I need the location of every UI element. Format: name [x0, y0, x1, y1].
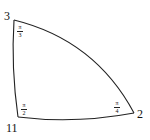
- triangle-drawing: [0, 0, 150, 140]
- vertex-label-top-left: 3: [4, 10, 10, 22]
- angle-numerator: π: [18, 24, 21, 30]
- vertex-label-right: 2: [137, 108, 143, 120]
- angle-numerator: π: [22, 102, 25, 108]
- vertex-label-bottom-left: 11: [6, 122, 18, 134]
- angle-denominator: 3: [19, 32, 22, 38]
- angle-numerator: π: [115, 100, 118, 106]
- angle-label-bottom-left: π 2: [21, 102, 27, 116]
- angle-label-top-left: π 3: [17, 24, 23, 38]
- angle-denominator: 2: [23, 110, 26, 116]
- angle-denominator: 4: [116, 108, 119, 114]
- edge-right-to-bottom: [18, 113, 134, 120]
- angle-label-right: π 4: [114, 100, 120, 114]
